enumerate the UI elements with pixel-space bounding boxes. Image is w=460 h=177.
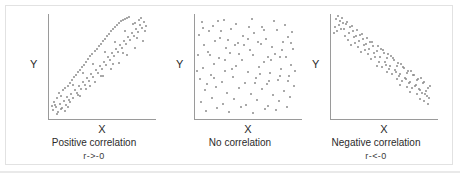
- plot-area-positive: [48, 14, 152, 118]
- scatter-point: [207, 51, 209, 53]
- scatter-point: [219, 37, 221, 39]
- scatter-point: [254, 82, 256, 84]
- scatter-point: [199, 78, 201, 80]
- scatter-point: [345, 23, 347, 25]
- scatter-point: [279, 56, 281, 58]
- scatter-point: [114, 26, 116, 28]
- scatter-point: [90, 73, 92, 75]
- scatter-point: [213, 63, 215, 65]
- scatter-point: [264, 108, 266, 110]
- scatter-point: [71, 79, 73, 81]
- scatter-point: [94, 50, 96, 52]
- scatter-point: [58, 92, 60, 94]
- scatter-point: [376, 65, 378, 67]
- scatter-point: [396, 65, 398, 67]
- scatter-point: [218, 57, 220, 59]
- scatter-point: [232, 76, 234, 78]
- scatter-point: [113, 55, 115, 57]
- scatter-point: [224, 70, 226, 72]
- scatter-point: [359, 34, 361, 36]
- scatter-point: [104, 51, 106, 53]
- scatter-point: [343, 28, 345, 30]
- scatter-point: [128, 16, 130, 18]
- scatter-point: [225, 47, 227, 49]
- scatter-point: [337, 15, 339, 17]
- scatter-point: [227, 39, 229, 41]
- scatter-point: [291, 31, 293, 33]
- caption-negative-correlation: Negative correlation: [294, 137, 458, 149]
- scatter-point: [418, 88, 420, 90]
- scatter-point: [89, 55, 91, 57]
- panel-no-correlation: Y X No correlation: [166, 6, 314, 164]
- scatter-point: [283, 90, 285, 92]
- scatter-point: [338, 24, 340, 26]
- scatter-point: [84, 84, 86, 86]
- scatter-point: [131, 32, 133, 34]
- scatter-point: [235, 65, 237, 67]
- scatter-point: [100, 43, 102, 45]
- scatter-point: [263, 61, 265, 63]
- scatter-point: [202, 67, 204, 69]
- scatter-point: [67, 106, 69, 108]
- scatter-point: [273, 20, 275, 22]
- scatter-point: [252, 112, 254, 114]
- scatter-point: [286, 106, 288, 108]
- scatter-point: [282, 41, 284, 43]
- scatter-point: [92, 76, 94, 78]
- scatter-point: [383, 52, 385, 54]
- scatter-point: [230, 28, 232, 30]
- scatter-point: [423, 100, 425, 102]
- scatter-point: [406, 86, 408, 88]
- scatter-point: [415, 84, 417, 86]
- panel-negative-correlation: Y X Negative correlation r-<-0: [302, 6, 450, 164]
- scatter-point: [64, 87, 66, 89]
- scatter-point: [142, 40, 144, 42]
- scatter-point: [290, 64, 292, 66]
- scatter-point: [259, 73, 261, 75]
- scatter-point: [228, 111, 230, 113]
- scatter-point: [387, 53, 389, 55]
- scatter-point: [231, 68, 233, 70]
- scatter-point: [272, 94, 274, 96]
- scatter-point: [85, 61, 87, 63]
- scatter-point: [377, 45, 379, 47]
- scatter-point: [70, 93, 72, 95]
- scatter-point: [118, 22, 120, 24]
- scatter-point: [293, 85, 295, 87]
- scatter-point: [385, 64, 387, 66]
- scatter-point: [125, 43, 127, 45]
- scatter-point: [271, 46, 273, 48]
- scatter-point: [425, 90, 427, 92]
- scatter-point: [211, 97, 213, 99]
- scatter-point: [274, 53, 276, 55]
- scatter-point: [294, 70, 296, 72]
- scatter-point: [216, 107, 218, 109]
- scatter-point: [196, 70, 198, 72]
- scatter-point: [197, 54, 199, 56]
- scatter-point: [56, 113, 58, 115]
- scatter-point: [79, 95, 81, 97]
- caption-sub-positive-correlation: r->-0: [12, 151, 176, 162]
- scatter-point: [413, 74, 415, 76]
- scatter-point: [240, 106, 242, 108]
- scatter-point: [143, 21, 145, 23]
- scatter-point: [109, 59, 111, 61]
- scatter-point: [257, 41, 259, 43]
- scatter-point: [333, 32, 335, 34]
- scatter-point: [429, 85, 431, 87]
- scatter-point: [349, 26, 351, 28]
- scatter-point: [250, 93, 252, 95]
- scatter-point: [73, 76, 75, 78]
- scatter-point: [205, 110, 207, 112]
- scatter-point: [210, 74, 212, 76]
- scatter-point: [267, 105, 269, 107]
- scatter-point: [382, 49, 384, 51]
- scatter-point: [290, 42, 292, 44]
- scatter-point: [258, 66, 260, 68]
- scatter-point: [203, 44, 205, 46]
- scatter-point: [354, 42, 356, 44]
- scatter-point: [53, 101, 55, 103]
- scatter-point: [266, 83, 268, 85]
- scatter-point: [372, 45, 374, 47]
- scatter-point: [263, 29, 265, 31]
